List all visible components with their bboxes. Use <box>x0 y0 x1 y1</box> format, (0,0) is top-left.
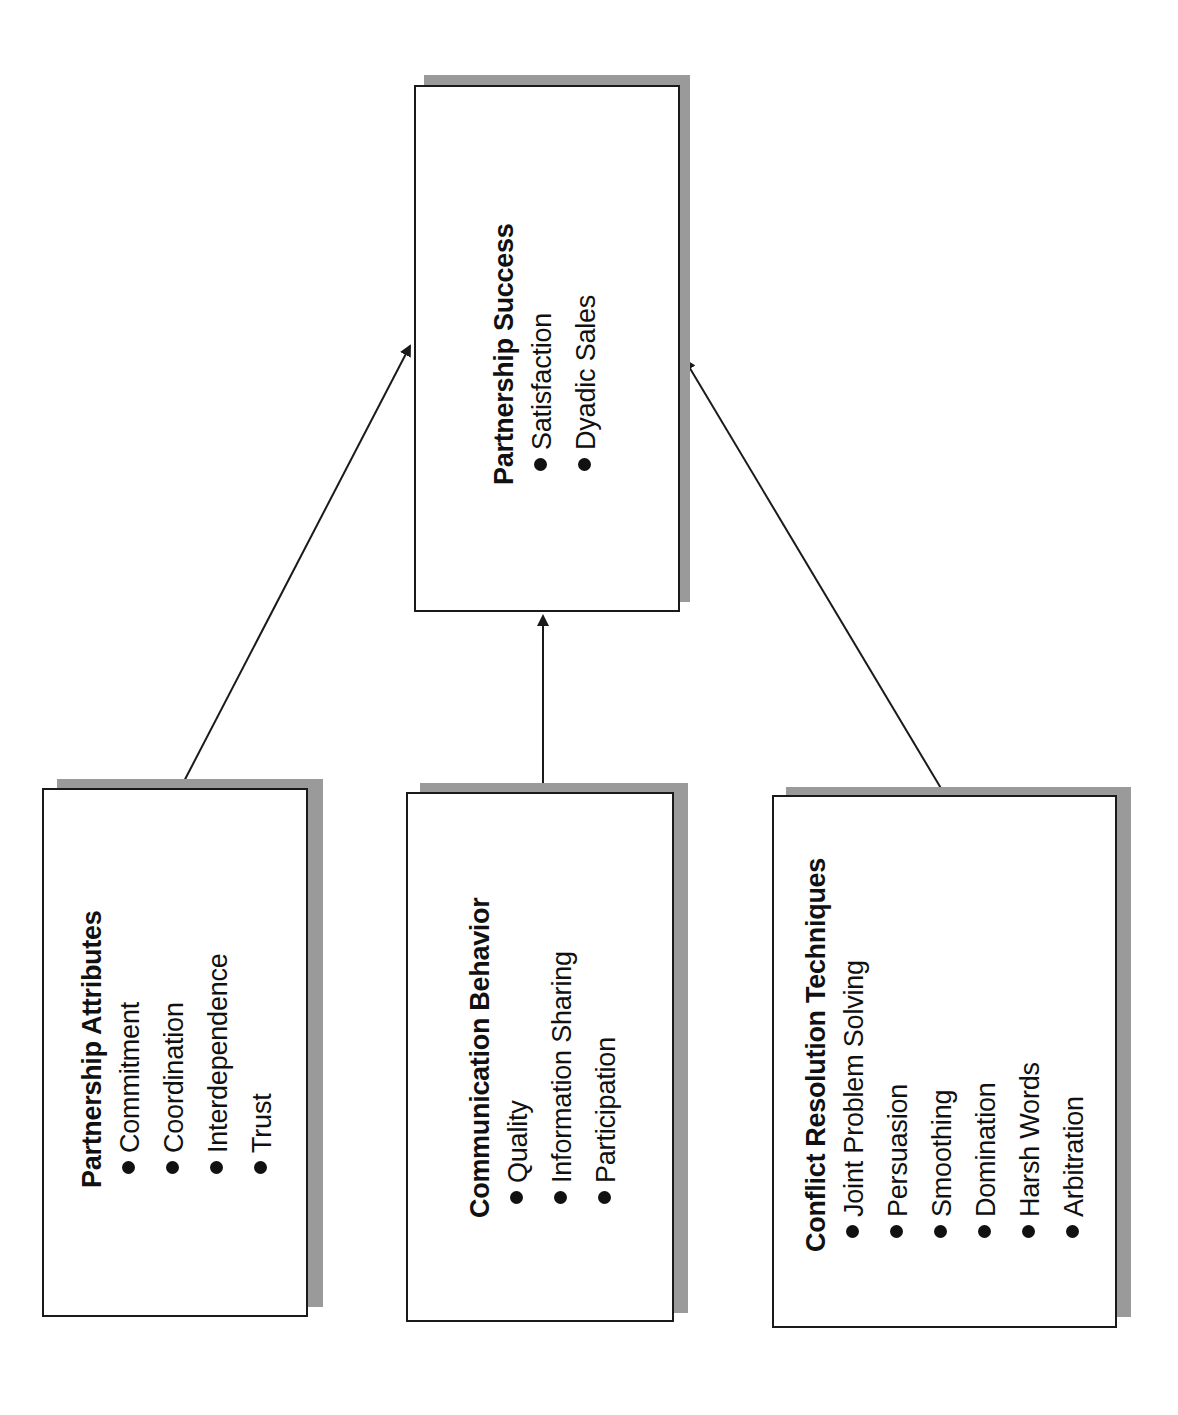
bullet-icon <box>578 458 591 471</box>
list-item: Information Sharing <box>540 898 584 1204</box>
list-item: Domination <box>964 858 1008 1238</box>
list-item: Persuasion <box>876 858 920 1238</box>
conflict-content: Conflict Resolution Techniques Joint Pro… <box>800 858 1096 1252</box>
list-item: Dyadic Sales <box>564 224 608 471</box>
list-item: Arbitration <box>1052 858 1096 1238</box>
list-item: Satisfaction <box>520 224 564 471</box>
communication-title: Communication Behavior <box>464 898 496 1218</box>
list-item: Joint Problem Solving <box>832 858 876 1238</box>
success-content: Partnership Success Satisfaction Dyadic … <box>488 224 608 485</box>
list-item: Quality <box>496 898 540 1204</box>
success-box: Partnership Success Satisfaction Dyadic … <box>414 85 680 612</box>
attributes-content: Partnership Attributes Commitment Coordi… <box>76 911 284 1188</box>
communication-content: Communication Behavior Quality Informati… <box>464 898 628 1218</box>
list-item: Trust <box>240 911 284 1174</box>
success-list: Satisfaction Dyadic Sales <box>520 224 608 485</box>
list-item: Interdependence <box>196 911 240 1174</box>
bullet-icon <box>890 1225 903 1238</box>
bullet-icon <box>122 1161 135 1174</box>
bullet-icon <box>934 1225 947 1238</box>
bullet-icon <box>166 1161 179 1174</box>
attributes-title: Partnership Attributes <box>76 911 108 1188</box>
bullet-icon <box>846 1225 859 1238</box>
list-item: Coordination <box>152 911 196 1174</box>
bullet-icon <box>978 1225 991 1238</box>
list-item: Harsh Words <box>1008 858 1052 1238</box>
communication-box: Communication Behavior Quality Informati… <box>406 792 674 1322</box>
bullet-icon <box>534 458 547 471</box>
arrow-attributes-to-success <box>180 346 410 789</box>
conflict-box: Conflict Resolution Techniques Joint Pro… <box>772 795 1117 1328</box>
success-title: Partnership Success <box>488 224 520 485</box>
bullet-icon <box>510 1191 523 1204</box>
bullet-icon <box>254 1161 267 1174</box>
bullet-icon <box>598 1191 611 1204</box>
conflict-title: Conflict Resolution Techniques <box>800 858 832 1252</box>
attributes-list: Commitment Coordination Interdependence … <box>108 911 284 1188</box>
list-item: Commitment <box>108 911 152 1174</box>
bullet-icon <box>554 1191 567 1204</box>
bullet-icon <box>210 1161 223 1174</box>
communication-list: Quality Information Sharing Participatio… <box>496 898 628 1218</box>
list-item: Smoothing <box>920 858 964 1238</box>
bullet-icon <box>1066 1225 1079 1238</box>
conflict-list: Joint Problem Solving Persuasion Smoothi… <box>832 858 1096 1252</box>
arrow-conflict-to-success <box>685 360 945 795</box>
bullet-icon <box>1022 1225 1035 1238</box>
list-item: Participation <box>584 898 628 1204</box>
attributes-box: Partnership Attributes Commitment Coordi… <box>42 788 308 1317</box>
